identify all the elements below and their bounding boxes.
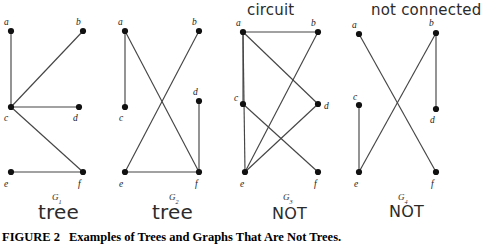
vertex-label-e: e [4, 179, 8, 189]
vertex-e [242, 169, 248, 175]
figure-number: FIGURE 2 [2, 230, 60, 244]
vertex-b [196, 28, 202, 34]
vertex-a [356, 31, 362, 37]
vertex-label-a: a [4, 17, 9, 27]
vertex-label-d: d [73, 113, 78, 123]
vertex-label-b: b [192, 17, 197, 27]
graph-g1: abcdefG1 [4, 17, 86, 205]
vertex-label-e: e [240, 179, 244, 189]
handwritten-annotation-not-connected: not connected [371, 1, 481, 19]
vertex-c [356, 102, 362, 108]
vertex-label-a: a [352, 20, 357, 30]
vertex-label-c: c [234, 93, 239, 103]
vertex-a [8, 28, 14, 34]
figure-container: abcdefG1abcdefG2abcdefG3abcdefG4 circuit… [0, 0, 491, 246]
vertex-c [8, 104, 14, 110]
vertex-d [76, 104, 82, 110]
vertex-f [196, 169, 202, 175]
graphs-layer: abcdefG1abcdefG2abcdefG3abcdefG4 [4, 17, 439, 205]
graph-edge-ad [243, 32, 318, 104]
handwritten-verdict-g2: tree [152, 200, 193, 224]
handwritten-annotation-circuit: circuit [247, 1, 294, 19]
vertex-f [315, 169, 321, 175]
vertex-label-c: c [4, 113, 9, 123]
vertex-label-b: b [76, 17, 81, 27]
vertex-label-f: f [314, 179, 318, 189]
graph-edge-cb [11, 31, 83, 107]
vertex-label-c: c [353, 92, 358, 102]
vertex-e [8, 169, 14, 175]
graph-g4: abcdefG4 [352, 18, 439, 205]
vertex-d [433, 106, 439, 112]
vertex-label-d: d [193, 87, 198, 97]
vertex-label-b: b [429, 18, 434, 28]
figure-caption-text: Examples of Trees and Graphs That Are No… [69, 230, 341, 244]
vertex-label-e: e [354, 179, 358, 189]
vertex-label-f: f [195, 179, 199, 189]
vertex-a [122, 28, 128, 34]
vertex-label-c: c [119, 113, 124, 123]
vertex-b [433, 30, 439, 36]
vertex-label-e: e [119, 179, 123, 189]
vertex-d [315, 101, 321, 107]
vertex-f [433, 169, 439, 175]
vertex-d [196, 98, 202, 104]
handwritten-verdict-g3: NOT [272, 204, 307, 223]
vertex-label-f: f [78, 179, 82, 189]
vertex-b [80, 28, 86, 34]
handwritten-verdict-g1: tree [38, 200, 79, 224]
vertex-label-f: f [431, 179, 435, 189]
vertex-c [122, 104, 128, 110]
vertex-a [240, 29, 246, 35]
vertex-label-d: d [324, 101, 329, 111]
graph-g2: abcdefG2 [118, 17, 202, 205]
vertex-label-b: b [311, 18, 316, 28]
vertex-label-d: d [430, 115, 435, 125]
figure-caption: FIGURE 2Examples of Trees and Graphs Tha… [2, 230, 489, 245]
vertex-e [122, 169, 128, 175]
graph-edge-be [245, 32, 318, 172]
graph-g3: abcdefG3 [234, 18, 329, 205]
vertex-label-a: a [236, 18, 241, 28]
handwritten-verdict-g4: NOT [389, 202, 424, 221]
vertex-b [315, 29, 321, 35]
vertex-label-a: a [118, 17, 123, 27]
vertex-c [240, 101, 246, 107]
vertex-e [356, 169, 362, 175]
vertex-f [80, 169, 86, 175]
